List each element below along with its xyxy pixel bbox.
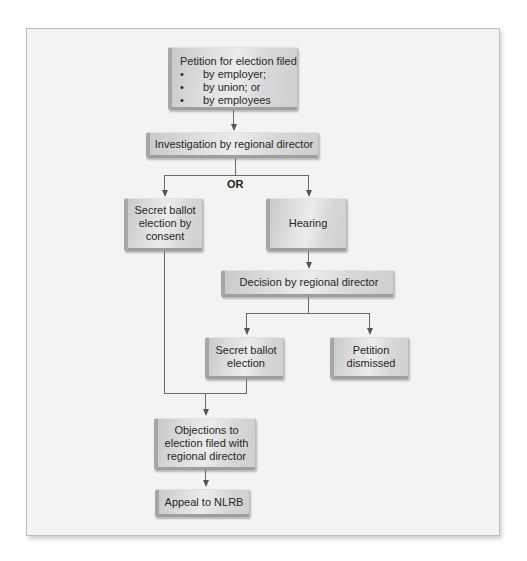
connector-election-down xyxy=(246,379,247,394)
arrow-head xyxy=(244,328,250,335)
decision-node: Decision by regional director xyxy=(221,270,394,297)
connector-decision-branch xyxy=(308,297,309,313)
arrow-head xyxy=(203,409,209,416)
arrow-head xyxy=(162,190,168,197)
objections-label: Objections to election filed with region… xyxy=(162,424,251,463)
or-label: OR xyxy=(227,178,244,190)
petition-filer-employees: by employees xyxy=(180,94,297,107)
secret-ballot-consent-label: Secret ballot election by consent xyxy=(132,204,198,243)
secret-ballot-election-label: Secret ballot election xyxy=(213,344,279,370)
connector-decision-horizontal xyxy=(246,313,370,314)
arrow-head xyxy=(306,190,312,197)
petition-title: Petition for election filed xyxy=(180,55,297,68)
objections-node: Objections to election filed with region… xyxy=(154,418,256,470)
hearing-label: Hearing xyxy=(289,217,328,230)
petition-filer-union: by union; or xyxy=(180,81,297,94)
petition-node: Petition for election filed by employer;… xyxy=(168,47,298,110)
connector-consent-down xyxy=(164,251,165,394)
arrow-head xyxy=(367,328,373,335)
connector-investigation-branch xyxy=(235,158,236,176)
decision-label: Decision by regional director xyxy=(240,276,379,289)
connector-branch-horizontal xyxy=(164,175,309,176)
secret-ballot-consent-node: Secret ballot election by consent xyxy=(124,198,203,251)
investigation-node: Investigation by regional director xyxy=(146,132,319,158)
arrow-head xyxy=(231,124,237,131)
petition-filer-employer: by employer; xyxy=(180,68,297,81)
hearing-node: Hearing xyxy=(266,198,347,251)
arrow-head xyxy=(306,262,312,269)
investigation-label: Investigation by regional director xyxy=(155,138,313,151)
appeal-label: Appeal to NLRB xyxy=(165,496,244,509)
petition-dismissed-label: Petition dismissed xyxy=(338,344,404,370)
petition-filer-list: by employer; by union; or by employees xyxy=(180,68,297,107)
petition-dismissed-node: Petition dismissed xyxy=(330,337,409,379)
secret-ballot-election-node: Secret ballot election xyxy=(205,337,284,379)
arrow-head xyxy=(203,480,209,487)
appeal-node: Appeal to NLRB xyxy=(155,489,250,517)
